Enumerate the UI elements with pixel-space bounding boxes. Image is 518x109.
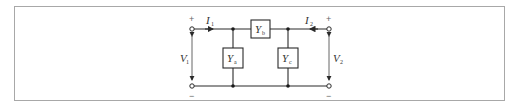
current-arrow-I2: I 2 <box>304 14 318 29</box>
svg-text:a: a <box>234 59 237 65</box>
admittance-Ya: Y a <box>223 48 243 68</box>
admittance-Yc: Y c <box>278 48 298 68</box>
pi-network-circuit: Y b Y a Y c I 1 I 2 V 1 <box>0 0 518 109</box>
current-arrow-I1: I 1 <box>205 14 214 29</box>
svg-text:c: c <box>289 59 292 65</box>
svg-text:+: + <box>326 14 331 24</box>
voltage-label-V1: V 1 <box>180 52 189 65</box>
svg-text:1: 1 <box>186 59 189 65</box>
svg-text:−: − <box>326 91 331 101</box>
svg-text:−: − <box>189 91 194 101</box>
svg-text:b: b <box>262 30 265 36</box>
svg-text:2: 2 <box>340 59 343 65</box>
svg-text:2: 2 <box>310 21 313 27</box>
voltage-label-V2: V 2 <box>333 52 343 65</box>
svg-text:1: 1 <box>211 21 214 27</box>
admittance-Yb: Y b <box>251 20 270 38</box>
svg-text:+: + <box>189 14 194 24</box>
